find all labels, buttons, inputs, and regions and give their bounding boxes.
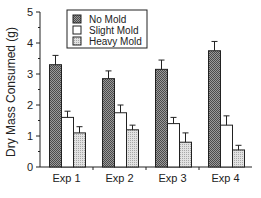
- y-tick-label: 1: [27, 130, 33, 142]
- bar-slight-mold: [168, 124, 180, 167]
- y-tick-label: 3: [27, 68, 33, 80]
- bar-no-mold: [103, 79, 115, 167]
- y-axis-title: Dry Mass Consumed (g): [4, 27, 18, 157]
- x-tick-label: Exp 2: [105, 172, 133, 184]
- x-tick-label: Exp 3: [158, 172, 186, 184]
- x-tick-label: Exp 1: [52, 172, 80, 184]
- bar-slight-mold: [221, 125, 233, 167]
- bar-slight-mold: [115, 113, 127, 167]
- bar-heavy-mold: [180, 142, 192, 167]
- bar-slight-mold: [62, 117, 74, 167]
- bar-chart: Dry Mass Consumed (g) 012345Exp 1Exp 2Ex…: [0, 0, 261, 198]
- bar-no-mold: [209, 51, 221, 167]
- y-tick-label: 0: [27, 161, 33, 173]
- bars: [50, 41, 245, 167]
- legend-swatch: [73, 37, 81, 45]
- bar-no-mold: [50, 65, 62, 167]
- legend-label: Heavy Mold: [89, 36, 142, 47]
- y-tick-label: 4: [27, 37, 33, 49]
- bar-heavy-mold: [233, 150, 245, 167]
- legend-swatch: [73, 26, 81, 34]
- legend-label: No Mold: [89, 14, 126, 25]
- y-tick-label: 2: [27, 99, 33, 111]
- bar-heavy-mold: [74, 133, 86, 167]
- legend: No MoldSlight MoldHeavy Mold: [67, 10, 147, 48]
- bar-no-mold: [156, 69, 168, 167]
- y-tick-label: 5: [27, 6, 33, 18]
- legend-label: Slight Mold: [89, 25, 138, 36]
- legend-swatch: [73, 15, 81, 23]
- x-tick-label: Exp 4: [211, 172, 239, 184]
- bar-heavy-mold: [127, 130, 139, 167]
